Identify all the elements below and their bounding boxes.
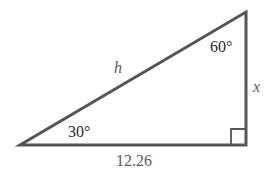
base-length-label: 12.26	[116, 152, 152, 169]
angle-label-30: 30°	[68, 123, 90, 140]
hypotenuse-label: h	[114, 59, 122, 76]
vertical-leg-label: x	[252, 78, 260, 95]
triangle-diagram: 30° 60° h x 12.26	[0, 0, 270, 175]
right-angle-marker	[231, 129, 246, 145]
triangle-outline	[20, 12, 246, 145]
angle-label-60: 60°	[210, 38, 232, 55]
